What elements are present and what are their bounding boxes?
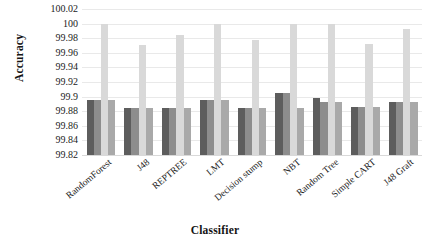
bar-group bbox=[384, 9, 422, 155]
bar-group bbox=[233, 9, 271, 155]
bar bbox=[410, 102, 417, 155]
bar bbox=[283, 93, 290, 155]
bar bbox=[124, 108, 131, 155]
bar bbox=[245, 108, 252, 155]
x-axis-tick-label: NBT bbox=[281, 157, 302, 177]
bar bbox=[389, 102, 396, 155]
bar bbox=[328, 24, 335, 155]
bar bbox=[373, 107, 380, 155]
bar bbox=[101, 24, 108, 155]
bar bbox=[351, 107, 358, 155]
bar bbox=[94, 100, 101, 155]
bar bbox=[169, 108, 176, 155]
y-axis-tick-labels: 100.0210099.9899.9699.9499.9299.999.8899… bbox=[22, 9, 78, 155]
bar-group bbox=[346, 9, 384, 155]
plot-area bbox=[82, 9, 422, 155]
bar-group bbox=[271, 9, 309, 155]
bar bbox=[297, 108, 304, 155]
bar-group bbox=[309, 9, 347, 155]
bar bbox=[207, 100, 214, 155]
x-axis-tick-label: J48 Graft bbox=[382, 157, 416, 188]
bar bbox=[335, 102, 342, 155]
bar bbox=[162, 108, 169, 155]
x-axis-tick-labels: RandomForestJ48REPTREELMTDecision stumpN… bbox=[82, 157, 422, 219]
y-axis-tick-label: 100.02 bbox=[22, 4, 78, 14]
x-axis-tick-label: REPTREE bbox=[151, 157, 189, 191]
bar bbox=[358, 107, 365, 155]
x-axis-tick-label: J48 bbox=[135, 157, 152, 173]
y-axis-tick-label: 100 bbox=[22, 19, 78, 29]
bar-groups bbox=[82, 9, 422, 155]
accuracy-bar-chart: Accuracy 100.0210099.9899.9699.9499.9299… bbox=[0, 0, 430, 246]
bar bbox=[290, 24, 297, 155]
bar bbox=[108, 100, 115, 155]
y-axis-tick-label: 99.92 bbox=[22, 77, 78, 87]
y-axis-tick-label: 99.88 bbox=[22, 106, 78, 116]
bar bbox=[320, 102, 327, 155]
bar bbox=[259, 108, 266, 155]
x-axis-tick-label: LMT bbox=[205, 157, 227, 178]
bar bbox=[365, 44, 372, 155]
bar-group bbox=[195, 9, 233, 155]
bar bbox=[275, 93, 282, 155]
y-axis-tick-label: 99.86 bbox=[22, 121, 78, 131]
y-axis-tick-label: 99.96 bbox=[22, 48, 78, 58]
bar bbox=[176, 35, 183, 155]
bar-group bbox=[158, 9, 196, 155]
y-axis-tick-label: 99.84 bbox=[22, 135, 78, 145]
bar-group bbox=[120, 9, 158, 155]
bar bbox=[184, 108, 191, 155]
bar bbox=[313, 98, 320, 155]
bar bbox=[214, 24, 221, 155]
x-axis-tick-label: RandomForest bbox=[64, 157, 113, 201]
bar bbox=[87, 100, 94, 155]
bar bbox=[131, 108, 138, 155]
bar bbox=[396, 102, 403, 155]
gridline bbox=[82, 155, 422, 156]
bar bbox=[200, 100, 207, 155]
bar-group bbox=[82, 9, 120, 155]
bar bbox=[146, 108, 153, 155]
bar bbox=[403, 29, 410, 155]
bar bbox=[139, 45, 146, 155]
bar bbox=[238, 108, 245, 155]
y-axis-tick-label: 99.98 bbox=[22, 33, 78, 43]
bar bbox=[252, 40, 259, 155]
y-axis-tick-label: 99.82 bbox=[22, 150, 78, 160]
y-axis-tick-label: 99.94 bbox=[22, 62, 78, 72]
y-axis-tick-label: 99.9 bbox=[22, 92, 78, 102]
bar bbox=[221, 100, 228, 155]
x-axis-title: Classifier bbox=[0, 224, 430, 236]
